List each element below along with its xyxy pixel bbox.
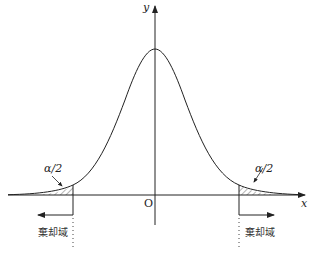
x-axis-label: x (301, 197, 308, 210)
normal-distribution-diagram: y x O α/2 α/2 棄却域 棄却域 (0, 0, 313, 255)
left-alpha-pointer (52, 176, 62, 186)
y-axis-label: y (142, 1, 150, 14)
origin-label: O (144, 197, 153, 210)
right-rejection-region-label: 棄却域 (245, 226, 275, 238)
left-rejection-region-label: 棄却域 (38, 226, 68, 238)
right-alpha-label: α/2 (255, 162, 273, 175)
left-alpha-label: α/2 (44, 162, 62, 175)
